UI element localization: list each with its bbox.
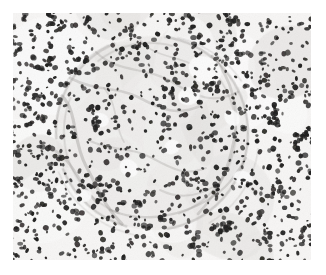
micrograph-figure: Grayscale photomicrograph of hematoxylin… — [0, 0, 326, 275]
micrograph-image — [13, 13, 311, 260]
micrograph-content-area — [13, 13, 311, 260]
